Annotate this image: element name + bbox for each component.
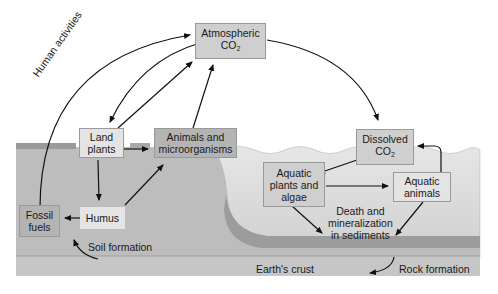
aquatic-animals-node: Aquatic animals — [393, 172, 451, 202]
animals-microorganisms-node: Animals and microorganisms — [154, 128, 237, 158]
fossil-fuels-node: Fossil fuels — [19, 205, 60, 237]
rock-formation-label: Rock formation — [399, 263, 470, 275]
humus-node: Humus — [80, 207, 125, 229]
grass-strip — [16, 143, 76, 149]
soil-formation-label: Soil formation — [88, 241, 152, 253]
aquatic-plants-node: Aquatic plants and algae — [263, 162, 325, 207]
earths-crust-label: Earth's crust — [256, 263, 314, 275]
atmospheric-co2-node: Atmospheric CO2 — [195, 23, 266, 59]
dissolved-co2-node: Dissolved CO2 — [356, 129, 414, 165]
land-plants-node: Land plants — [79, 128, 124, 158]
death-mineralization-label: Death and mineralization in sediments — [328, 205, 393, 241]
